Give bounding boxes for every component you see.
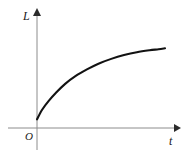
arrow-up-icon bbox=[33, 8, 41, 16]
arrow-right-icon bbox=[174, 124, 181, 132]
x-axis-label: t bbox=[169, 135, 172, 147]
graph-figure: L t O bbox=[0, 0, 181, 154]
data-curve bbox=[37, 48, 165, 119]
origin-label: O bbox=[25, 131, 33, 142]
y-axis-label: L bbox=[23, 10, 30, 22]
